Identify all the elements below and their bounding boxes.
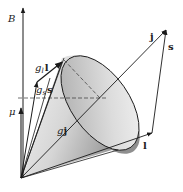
gl-l-label: gll (35, 62, 49, 75)
l-label: l (143, 140, 147, 151)
j-label: j (149, 31, 154, 42)
mu-label: μ (9, 106, 16, 117)
gj-label: gj (57, 125, 67, 136)
precession-diagram: B μ gll gss gj j s l (0, 0, 183, 192)
s-arrow (152, 30, 166, 133)
B-label: B (7, 13, 15, 24)
s-label: s (168, 41, 174, 52)
